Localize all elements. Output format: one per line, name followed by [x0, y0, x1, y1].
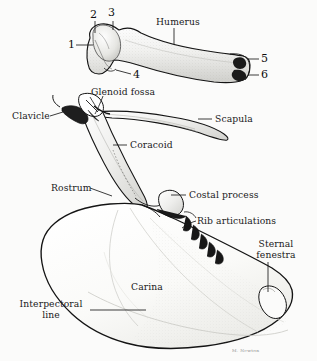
label-glenoid-fossa: Glenoid fossa — [91, 86, 155, 97]
leader-rostrum — [90, 188, 112, 196]
label-sternal-fenestra: Sternal fenestra — [248, 238, 304, 260]
label-rostrum: Rostrum — [51, 182, 92, 193]
leader-4 — [116, 70, 131, 74]
leader-clavicle — [50, 112, 63, 116]
callout-3: 3 — [108, 6, 115, 19]
artist-signature: M. Newton — [232, 348, 259, 352]
label-humerus: Humerus — [156, 16, 200, 27]
label-sternal-fenestra-line1: Sternal — [259, 238, 294, 249]
label-interpectoral-line1: Interpectoral — [20, 298, 83, 309]
label-interpectoral-line: Interpectoral line — [12, 298, 90, 320]
label-costal-process: Costal process — [189, 189, 259, 200]
callout-4: 4 — [133, 68, 140, 81]
callout-5: 5 — [261, 52, 268, 65]
callout-2: 2 — [90, 8, 97, 21]
humerus-bone — [87, 24, 250, 83]
sternum-bone — [41, 190, 292, 348]
label-rib-articulations: Rib articulations — [197, 215, 276, 226]
label-interpectoral-line2: line — [42, 309, 60, 320]
clavicle-shaft — [53, 95, 60, 107]
callout-1: 1 — [68, 38, 75, 51]
label-carina: Carina — [131, 281, 163, 292]
label-clavicle: Clavicle — [12, 110, 50, 121]
label-scapula: Scapula — [215, 113, 253, 124]
label-coracoid: Coracoid — [130, 139, 173, 150]
label-sternal-fenestra-line2: fenestra — [256, 249, 295, 260]
callout-6: 6 — [261, 68, 268, 81]
